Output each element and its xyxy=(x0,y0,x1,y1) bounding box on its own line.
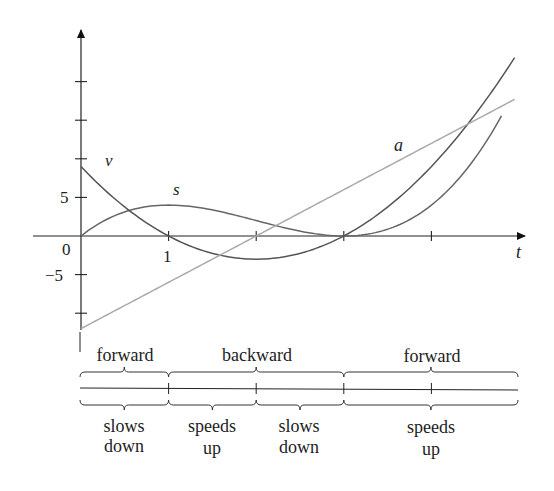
curve-a xyxy=(81,99,515,328)
curves xyxy=(81,58,515,329)
direction-brace-3 xyxy=(344,367,518,377)
speed-brace-1 xyxy=(80,400,169,410)
number-line xyxy=(80,388,518,390)
direction-label-forward-2: forward xyxy=(404,346,461,366)
speed-label-3a: slows xyxy=(278,416,319,436)
speed-label-1a: slows xyxy=(103,416,144,436)
x-axis-label: t xyxy=(516,242,522,262)
direction-label-backward: backward xyxy=(222,345,292,365)
y-tick-label-5: 5 xyxy=(60,188,69,207)
direction-brace-1 xyxy=(80,367,169,377)
speed-label-4a: speeds xyxy=(407,417,455,437)
curve-label-s: s xyxy=(173,180,180,199)
speed-brace-2 xyxy=(169,400,257,410)
speed-label-3b: down xyxy=(279,437,319,457)
direction-brace-2 xyxy=(169,367,344,377)
speed-label-2a: speeds xyxy=(188,416,236,436)
x-tick-label-1: 1 xyxy=(163,247,172,266)
curve-label-a: a xyxy=(394,135,403,155)
speed-label-4b: up xyxy=(422,439,440,459)
speed-label-1b: down xyxy=(104,436,144,456)
speed-brace-4 xyxy=(344,400,518,410)
speed-brace-3 xyxy=(256,400,344,410)
y-tick-label-neg5: −5 xyxy=(45,266,63,285)
curve-label-v: v xyxy=(105,151,113,170)
direction-label-forward-1: forward xyxy=(97,345,154,365)
speed-label-2b: up xyxy=(203,438,221,458)
motion-graph: 0 1 5 −5 t v s a forward backward forwar… xyxy=(0,0,554,491)
curve-v xyxy=(81,58,515,260)
origin-label: 0 xyxy=(62,240,71,259)
